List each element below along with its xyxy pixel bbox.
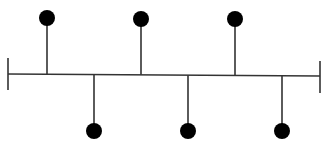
- marker-dot: [39, 10, 55, 26]
- marker-dot: [274, 123, 290, 139]
- bottom-marker: [86, 75, 102, 139]
- timeline-axis-group: [8, 58, 320, 93]
- marker-dot: [227, 11, 243, 27]
- top-marker: [133, 11, 149, 75]
- top-marker: [39, 10, 55, 74]
- top-marker: [227, 11, 243, 75]
- bottom-markers: [86, 75, 290, 139]
- timeline-diagram: [0, 0, 323, 143]
- timeline-axis-line: [8, 74, 320, 76]
- marker-dot: [86, 123, 102, 139]
- marker-dot: [180, 123, 196, 139]
- marker-dot: [133, 11, 149, 27]
- top-markers: [39, 10, 243, 75]
- bottom-marker: [274, 76, 290, 139]
- bottom-marker: [180, 75, 196, 139]
